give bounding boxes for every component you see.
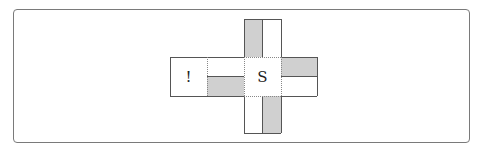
hbar-top-edge-right: [281, 57, 317, 58]
hbar-bottom-edge-right: [281, 96, 317, 97]
fold-line-center-bottom: [244, 96, 281, 97]
vbar-divider-bottom: [262, 96, 263, 133]
left-middle-shaded-half: [207, 76, 244, 96]
vbar-divider-top: [262, 19, 263, 57]
vbar-bottom-edge: [244, 133, 281, 134]
top-arm-shaded-half: [244, 19, 262, 57]
vbar-right-edge-top: [281, 19, 282, 57]
fold-line-left: [207, 57, 208, 96]
hbar-bottom-edge-left: [170, 96, 244, 97]
vbar-left-edge-top: [244, 19, 245, 57]
fold-line-center-right: [281, 57, 282, 96]
left-middle-divider: [207, 76, 244, 77]
right-arm-shaded-half: [281, 57, 317, 76]
center-cell-label: S: [244, 57, 281, 96]
vbar-right-edge-bottom: [281, 96, 282, 133]
bottom-arm-shaded-half: [262, 96, 281, 133]
left-cell-label: !: [170, 57, 207, 96]
right-arm-divider: [281, 76, 317, 77]
hbar-right-edge: [317, 57, 318, 96]
vbar-left-edge-bottom: [244, 96, 245, 133]
